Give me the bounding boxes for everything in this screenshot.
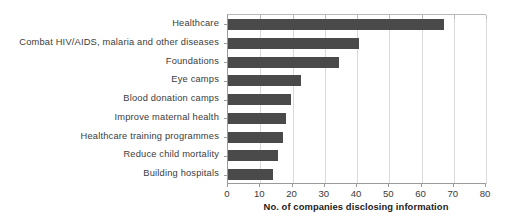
bar-row: [228, 165, 486, 184]
x-tick-label-10: 10: [244, 188, 274, 199]
x-tick-70: [453, 183, 454, 187]
category-label: Healthcare training programmes: [81, 127, 219, 146]
category-tick: [224, 81, 228, 82]
bar: [228, 169, 273, 180]
bar-row: [228, 128, 486, 147]
x-tick-label-20: 20: [277, 188, 307, 199]
x-tick-label-70: 70: [438, 188, 468, 199]
x-tick-30: [324, 183, 325, 187]
x-tick-label-30: 30: [309, 188, 339, 199]
gridline-80: [486, 15, 487, 184]
x-tick-60: [421, 183, 422, 187]
bar-row: [228, 90, 486, 109]
top-tick-80: [486, 15, 487, 19]
category-label: Combat HIV/AIDS, malaria and other disea…: [19, 33, 219, 52]
category-tick: [224, 43, 228, 44]
category-label: Blood donation camps: [123, 89, 219, 108]
bar: [228, 75, 301, 86]
bar: [228, 113, 286, 124]
plot-area: [227, 14, 486, 184]
x-tick-40: [356, 183, 357, 187]
bar-row: [228, 53, 486, 72]
category-label: Improve maternal health: [114, 108, 219, 127]
x-axis-title: No. of companies disclosing information: [227, 201, 485, 212]
x-tick-10: [259, 183, 260, 187]
bar: [228, 19, 444, 30]
bar-row: [228, 34, 486, 53]
bar: [228, 38, 359, 49]
category-label: Reduce child mortality: [123, 145, 219, 164]
category-tick: [224, 24, 228, 25]
bar-row: [228, 71, 486, 90]
bar-row: [228, 109, 486, 128]
category-tick: [224, 100, 228, 101]
bar: [228, 150, 278, 161]
bar: [228, 94, 291, 105]
x-tick-50: [388, 183, 389, 187]
bar: [228, 132, 283, 143]
bar-row: [228, 146, 486, 165]
x-tick-label-0: 0: [212, 188, 242, 199]
category-tick: [224, 62, 228, 63]
category-label: Healthcare: [172, 14, 219, 33]
category-tick: [224, 118, 228, 119]
category-axis-labels: HealthcareCombat HIV/AIDS, malaria and o…: [0, 14, 223, 183]
category-label: Building hospitals: [143, 164, 219, 183]
category-label: Eye camps: [171, 70, 219, 89]
bar: [228, 57, 339, 68]
x-tick-label-40: 40: [341, 188, 371, 199]
x-tick-0: [227, 183, 228, 187]
x-tick-label-80: 80: [470, 188, 500, 199]
x-tick-label-60: 60: [406, 188, 436, 199]
x-tick-label-50: 50: [373, 188, 403, 199]
x-tick-20: [292, 183, 293, 187]
category-tick: [224, 156, 228, 157]
x-tick-80: [485, 183, 486, 187]
category-tick: [224, 175, 228, 176]
bar-chart: HealthcareCombat HIV/AIDS, malaria and o…: [0, 0, 509, 223]
bar-row: [228, 15, 486, 34]
category-label: Foundations: [166, 52, 219, 71]
category-tick: [224, 137, 228, 138]
